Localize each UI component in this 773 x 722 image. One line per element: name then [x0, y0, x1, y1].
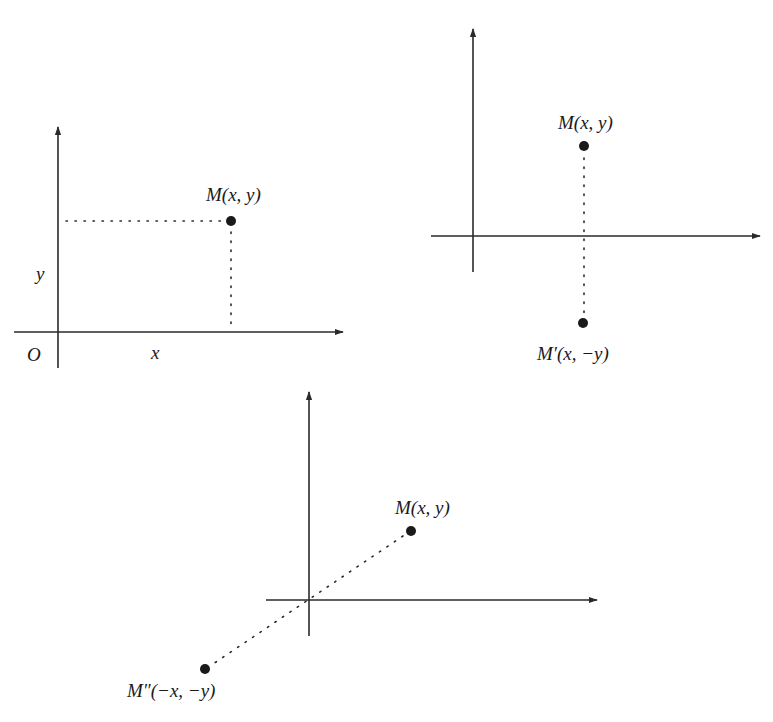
diagram-reflection-x-axis: M(x, y) M′(x, −y)	[431, 29, 760, 365]
point-m	[579, 141, 589, 151]
point-m	[406, 526, 416, 536]
y-coordinate-label: y	[34, 263, 45, 284]
diagram-reflection-origin: M(x, y) M″(−x, −y)	[126, 392, 597, 702]
point-m	[226, 216, 236, 226]
point-m-label: M(x, y)	[557, 112, 613, 134]
origin-label: O	[27, 344, 41, 365]
point-m-prime-label: M′(x, −y)	[536, 343, 609, 365]
point-m-label: M(x, y)	[394, 497, 450, 519]
point-m-prime	[578, 318, 588, 328]
point-m-double-prime	[200, 664, 210, 674]
point-m-double-prime-label: M″(−x, −y)	[126, 680, 215, 702]
point-m-label: M(x, y)	[205, 184, 261, 206]
figure-canvas: M(x, y) O x y M(x, y) M′(x, −y) M(x, y) …	[0, 0, 773, 722]
diagram-coordinates: M(x, y) O x y	[14, 127, 343, 368]
x-coordinate-label: x	[150, 342, 160, 363]
